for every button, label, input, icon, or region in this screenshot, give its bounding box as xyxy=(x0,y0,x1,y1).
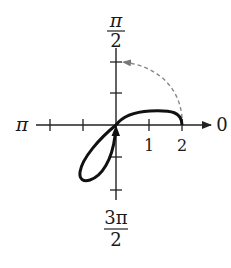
label-3pi-over-2-numerator: 3π xyxy=(104,207,127,228)
tick-label-2: 2 xyxy=(177,136,187,155)
tick-label-1: 1 xyxy=(144,136,154,155)
polar-curve-loop xyxy=(80,125,116,181)
label-pi: π xyxy=(15,113,29,135)
label-zero: 0 xyxy=(216,114,227,135)
label-3pi-over-2-denominator: 2 xyxy=(110,229,121,250)
label-pi-over-2-numerator: π xyxy=(109,9,123,31)
polar-graph: π 2 π 0 1 2 3π 2 xyxy=(0,0,231,268)
label-pi-over-2-denominator: 2 xyxy=(110,30,121,51)
